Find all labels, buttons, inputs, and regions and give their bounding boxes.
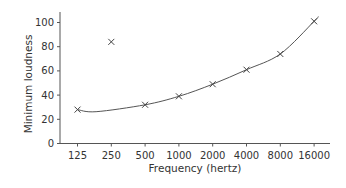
y-tick-label: 60 (41, 65, 54, 76)
x-tick-label: 1000 (166, 150, 191, 161)
x-marker-icon (244, 67, 250, 73)
data-markers (75, 18, 318, 112)
x-marker-icon (210, 81, 216, 87)
x-marker-icon (176, 93, 182, 99)
y-tick-label: 40 (41, 90, 54, 101)
y-axis-label: Minimum loudness (22, 35, 34, 134)
x-tick-label: 250 (102, 150, 121, 161)
y-tick-label: 20 (41, 114, 54, 125)
x-axis-ticks: 125250500100020004000800016000 (68, 144, 330, 161)
x-axis-label: Frequency (hertz) (149, 162, 242, 174)
x-tick-label: 500 (136, 150, 155, 161)
axes (60, 12, 330, 144)
fit-curve (78, 17, 319, 112)
x-marker-icon (277, 51, 283, 57)
x-marker-icon (311, 18, 317, 24)
y-tick-label: 0 (48, 138, 54, 149)
x-tick-label: 4000 (234, 150, 259, 161)
x-tick-label: 2000 (200, 150, 225, 161)
y-tick-label: 80 (41, 41, 54, 52)
x-tick-label: 16000 (298, 150, 330, 161)
loudness-chart: 020406080100 125250500100020004000800016… (0, 0, 346, 188)
x-marker-icon (108, 39, 114, 45)
y-tick-label: 100 (35, 17, 54, 28)
x-tick-label: 8000 (268, 150, 293, 161)
y-axis-ticks: 020406080100 (35, 17, 60, 149)
x-tick-label: 125 (68, 150, 87, 161)
